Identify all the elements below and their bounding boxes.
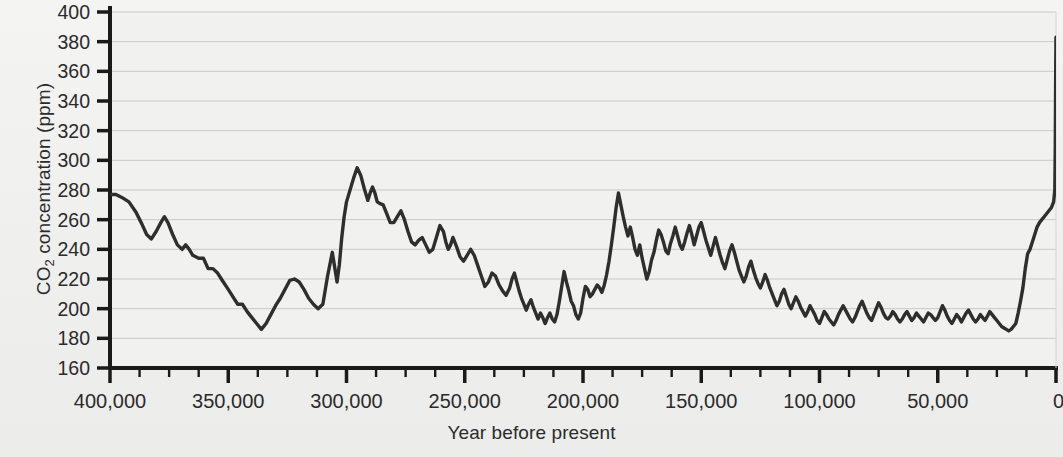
y-axis-title: CO2 concentration (ppm): [33, 59, 55, 319]
y-axis-tick-label: 320: [57, 120, 90, 142]
x-axis-tick-label: 50,000: [907, 390, 968, 412]
y-axis-title-subscript: 2: [42, 259, 57, 266]
y-axis-tick-label: 240: [57, 238, 90, 260]
x-axis-title: Year before present: [0, 422, 1063, 444]
co2-chart-figure: 1601802002202402602803003203403603804004…: [0, 0, 1063, 457]
x-axis-tick-label: 350,000: [192, 390, 264, 412]
x-axis-tick-label: 150,000: [665, 390, 737, 412]
y-axis-tick-label: 380: [57, 31, 90, 53]
chart-plot-area: 1601802002202402602803003203403603804004…: [0, 0, 1063, 457]
y-axis-title-post: concentration (ppm): [33, 83, 54, 259]
y-axis-tick-label: 160: [57, 357, 90, 379]
y-axis-tick-label: 180: [57, 327, 90, 349]
y-axis-tick-label: 400: [57, 1, 90, 23]
y-axis-tick-label: 360: [57, 60, 90, 82]
y-axis-tick-label: 200: [57, 298, 90, 320]
x-axis-tick-label: 250,000: [429, 390, 501, 412]
y-axis-tick-label: 340: [57, 90, 90, 112]
x-axis-tick-label: 400,000: [74, 390, 146, 412]
x-axis-tick-label: 200,000: [547, 390, 619, 412]
y-axis-tick-label: 280: [57, 179, 90, 201]
x-axis-tick-label: 100,000: [783, 390, 855, 412]
x-axis-tick-label: 0: [1053, 390, 1063, 412]
y-axis-tick-label: 260: [57, 209, 90, 231]
y-axis-tick-label: 300: [57, 149, 90, 171]
x-axis-tick-label: 300,000: [310, 390, 382, 412]
y-axis-title-pre: CO: [33, 266, 54, 295]
y-axis-tick-label: 220: [57, 268, 90, 290]
